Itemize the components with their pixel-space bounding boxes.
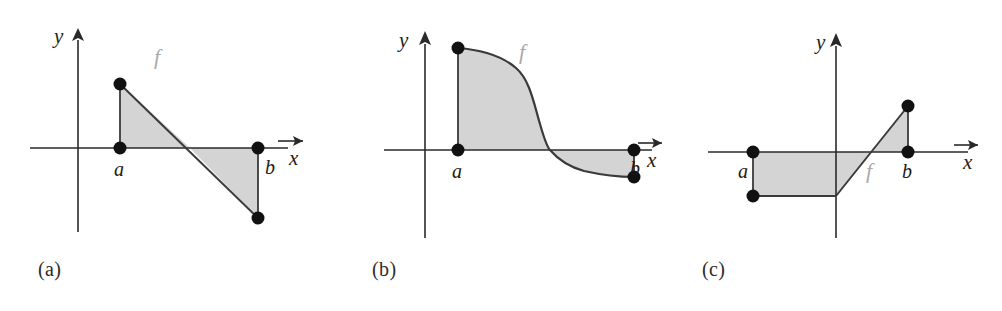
y-axis-label: y xyxy=(816,30,825,55)
right-endpoint-label-b: b xyxy=(902,160,912,183)
function-label-f: f xyxy=(154,44,160,70)
panel-caption-c: (c) xyxy=(702,258,725,281)
function-label-f: f xyxy=(519,39,525,65)
function-label-f: f xyxy=(866,158,872,184)
x-axis-label: x xyxy=(289,146,298,171)
point-b-axis xyxy=(252,142,265,155)
left-endpoint-label-a: a xyxy=(452,160,462,183)
point-b-bottom xyxy=(252,212,265,225)
right-endpoint-label-b: b xyxy=(265,156,275,179)
y-axis-label: y xyxy=(54,24,63,49)
point-b-top xyxy=(902,100,915,113)
y-axis-arrowhead xyxy=(72,28,84,41)
point-a-top xyxy=(452,42,465,55)
point-a-bottom xyxy=(747,190,760,203)
panel-caption-b: (b) xyxy=(372,258,397,281)
figure-root: y x a b f y xyxy=(0,0,1002,311)
y-axis-arrowhead xyxy=(419,31,431,45)
positive-area-region xyxy=(458,48,550,150)
point-b-axis xyxy=(628,144,641,157)
y-axis-label: y xyxy=(399,28,408,53)
right-endpoint-label-b: b xyxy=(630,157,640,180)
point-a-axis xyxy=(747,146,760,159)
left-endpoint-label-a: a xyxy=(114,158,124,181)
point-a-top xyxy=(114,78,127,91)
x-axis-label: x xyxy=(647,148,656,173)
left-endpoint-label-a: a xyxy=(738,160,748,183)
panel-caption-a: (a) xyxy=(38,258,61,281)
y-axis-arrowhead xyxy=(830,33,842,47)
x-axis-label: x xyxy=(963,150,972,175)
point-b-axis xyxy=(902,146,915,159)
point-a-axis xyxy=(114,142,127,155)
point-a-axis xyxy=(452,144,465,157)
